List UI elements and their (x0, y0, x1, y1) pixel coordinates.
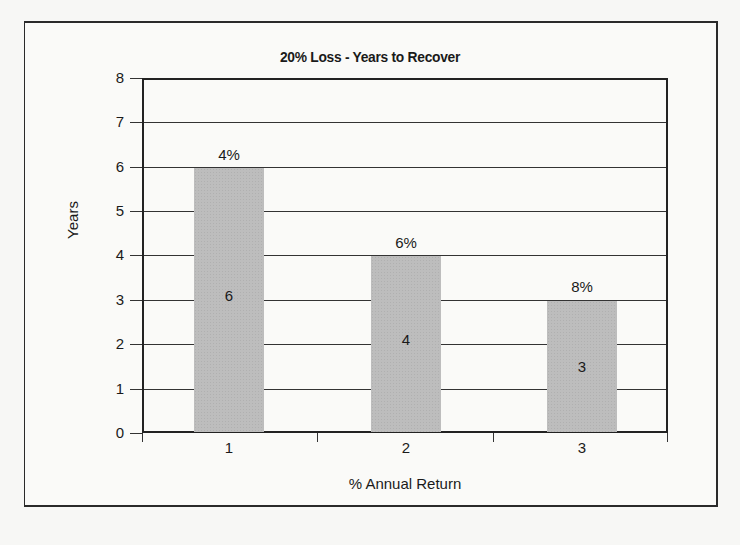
y-tick-mark (130, 211, 142, 212)
x-tick-label-1: 1 (209, 439, 249, 456)
y-tick-label-8: 8 (104, 70, 124, 86)
bar-1-top-label: 4% (194, 146, 264, 163)
bar-2-top-label: 6% (371, 234, 441, 251)
gridline-7 (144, 122, 666, 123)
y-tick-label-4: 4 (104, 247, 124, 263)
y-tick-mark (130, 389, 142, 390)
y-tick-label-3: 3 (104, 292, 124, 308)
y-tick-label-1: 1 (104, 381, 124, 397)
y-tick-label-2: 2 (104, 336, 124, 352)
x-tick-mark (493, 433, 494, 442)
y-tick-label-0: 0 (104, 425, 124, 441)
y-tick-mark (130, 122, 142, 123)
y-tick-mark (130, 344, 142, 345)
y-tick-label-7: 7 (104, 114, 124, 130)
bar-3-top-label: 8% (547, 278, 617, 295)
x-tick-mark (667, 433, 668, 442)
bar-1-value-label: 6 (194, 287, 264, 304)
y-tick-mark (130, 300, 142, 301)
x-tick-mark (317, 433, 318, 442)
y-tick-mark (130, 433, 142, 434)
chart-title: 20% Loss - Years to Recover (30, 48, 711, 65)
y-tick-mark (130, 255, 142, 256)
y-tick-label-5: 5 (104, 203, 124, 219)
y-tick-label-6: 6 (104, 159, 124, 175)
y-tick-mark (130, 78, 142, 79)
x-tick-label-2: 2 (386, 439, 426, 456)
y-tick-mark (130, 167, 142, 168)
x-tick-mark (142, 433, 143, 442)
y-axis-title: Years (64, 190, 81, 250)
bar-2-value-label: 4 (371, 331, 441, 348)
bar-3-value-label: 3 (547, 358, 617, 375)
x-tick-label-3: 3 (562, 439, 602, 456)
x-axis-title: % Annual Return (0, 475, 740, 492)
